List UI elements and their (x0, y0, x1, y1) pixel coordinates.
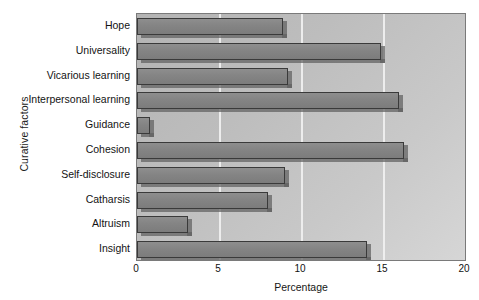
bar-chart-figure: Curative factors HopeUniversalityVicario… (0, 0, 479, 300)
plot-area (136, 13, 466, 261)
x-axis-tick-labels: 05101520 (136, 263, 466, 279)
bar-body (137, 142, 404, 159)
x-tick-label: 15 (376, 263, 387, 274)
x-tick-label: 10 (294, 263, 305, 274)
x-tick-label: 0 (133, 263, 139, 274)
bar-body (137, 18, 283, 35)
bar (137, 68, 288, 85)
category-label: Universality (18, 45, 130, 56)
category-label: Hope (18, 20, 130, 31)
x-tick-label: 5 (215, 263, 221, 274)
bar (137, 43, 381, 60)
bar (137, 192, 268, 209)
bar-body (137, 216, 188, 233)
bar (137, 18, 283, 35)
bar (137, 142, 404, 159)
bar (137, 167, 285, 184)
bar-body (137, 92, 399, 109)
bar-body (137, 241, 367, 258)
x-axis-title: Percentage (136, 281, 466, 293)
category-label: Vicarious learning (18, 70, 130, 81)
bar-body (137, 43, 381, 60)
category-label: Cohesion (18, 144, 130, 155)
bar-body (137, 167, 285, 184)
bar-body (137, 192, 268, 209)
bar-body (137, 68, 288, 85)
category-axis-labels: HopeUniversalityVicarious learningInterp… (18, 13, 130, 261)
bar-body (137, 117, 150, 134)
bar (137, 117, 150, 134)
category-label: Insight (18, 243, 130, 254)
category-label: Guidance (18, 119, 130, 130)
x-tick-label: 20 (458, 263, 469, 274)
category-label: Interpersonal learning (18, 94, 130, 105)
category-label: Self-disclosure (18, 169, 130, 180)
category-label: Altruism (18, 218, 130, 229)
bar (137, 92, 399, 109)
category-label: Catharsis (18, 194, 130, 205)
bar (137, 241, 367, 258)
bar (137, 216, 188, 233)
